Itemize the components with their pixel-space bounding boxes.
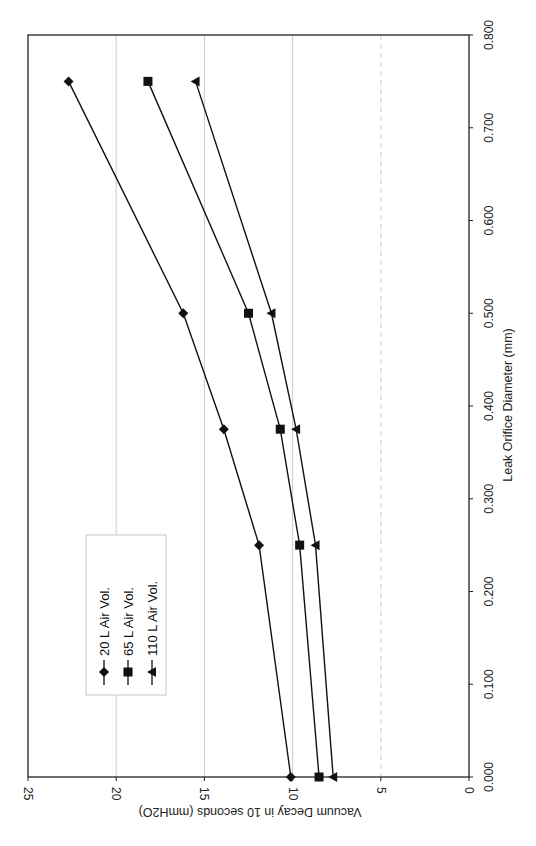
triangle-marker <box>191 76 200 86</box>
legend-square-icon <box>124 668 133 677</box>
series-line <box>196 81 334 777</box>
legend-label: 20 L Air Vol. <box>97 587 112 656</box>
legend-label: 110 L Air Vol. <box>145 581 160 656</box>
square-marker <box>244 309 253 318</box>
y-tick-label: 10 <box>286 787 300 801</box>
x-tick-label: 0.200 <box>482 576 496 606</box>
legend-label: 65 L Air Vol. <box>121 587 136 656</box>
square-marker <box>315 773 324 782</box>
y-tick-label: 20 <box>109 787 123 801</box>
legend: 20 L Air Vol.65 L Air Vol.110 L Air Vol. <box>86 535 166 695</box>
y-axis-title: Vacuum Decay in 10 seconds (mmH2O) <box>139 805 362 819</box>
line-chart: 0510152025 0.0000.1000.2000.3000.4000.50… <box>0 0 536 846</box>
diamond-marker <box>254 540 264 550</box>
square-marker <box>276 425 285 434</box>
y-tick-label: 15 <box>197 787 211 801</box>
y-axis-ticks: 0510152025 <box>21 777 476 801</box>
x-tick-label: 0.600 <box>482 205 496 235</box>
x-tick-label: 0.300 <box>482 483 496 513</box>
square-marker <box>295 541 304 550</box>
x-tick-label: 0.100 <box>482 669 496 699</box>
series-triangle <box>191 76 338 782</box>
x-tick-label: 0.800 <box>482 20 496 50</box>
diamond-marker <box>219 424 229 434</box>
y-tick-label: 5 <box>374 787 388 794</box>
diamond-marker <box>64 76 74 86</box>
y-tick-label: 25 <box>21 787 35 801</box>
x-tick-label: 0.500 <box>482 298 496 328</box>
square-marker <box>143 77 152 86</box>
y-tick-label: 0 <box>462 787 476 794</box>
diamond-marker <box>286 772 296 782</box>
x-tick-label: 0.400 <box>482 391 496 421</box>
diamond-marker <box>178 308 188 318</box>
x-axis-ticks: 0.0000.1000.2000.3000.4000.5000.6000.700… <box>469 20 496 792</box>
x-tick-label: 0.700 <box>482 112 496 142</box>
x-axis-title: Leak Orifice Diameter (mm) <box>501 328 515 482</box>
x-tick-label: 0.000 <box>482 762 496 792</box>
